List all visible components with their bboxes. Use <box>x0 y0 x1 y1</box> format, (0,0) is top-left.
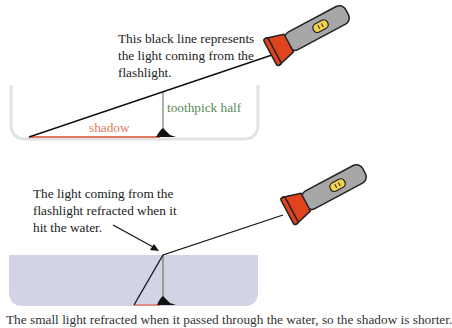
bottom-caption: The light coming from the flashlight ref… <box>33 185 177 236</box>
cutoff-caption: The small light refracted when it passed… <box>6 311 452 328</box>
toothpick-label: toothpick half <box>167 100 241 116</box>
top-caption: This black line represents the light com… <box>118 30 254 81</box>
bottom-caption-line-2: flashlight refracted when it <box>33 202 177 219</box>
top-caption-line-3: flashlight. <box>118 64 254 81</box>
top-caption-line-2: the light coming from the <box>118 47 254 64</box>
shadow-label: shadow <box>89 120 130 136</box>
bottom-caption-line-3: hit the water. <box>33 219 177 236</box>
top-flashlight-icon <box>263 0 354 66</box>
bottom-flashlight-icon <box>280 158 371 225</box>
bottom-water-bowl <box>9 255 258 306</box>
callout-arrowhead <box>150 244 159 251</box>
top-toothpick-base <box>156 128 176 137</box>
bottom-caption-line-1: The light coming from the <box>33 185 177 202</box>
top-caption-line-1: This black line represents <box>118 30 254 47</box>
